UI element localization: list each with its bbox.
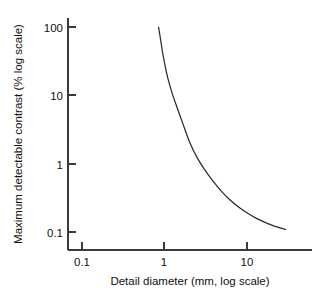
y-tick-label-100: 100 xyxy=(44,22,63,34)
y-tick-marks xyxy=(68,27,76,232)
x-tick-marks xyxy=(82,242,247,250)
x-tick-label-10: 10 xyxy=(241,256,254,268)
chart-figure: 100 10 1 0.1 0.1 1 10 Detail diameter (m… xyxy=(0,0,324,296)
x-tick-label-1: 1 xyxy=(161,256,167,268)
contrast-detail-curve xyxy=(159,27,286,229)
y-tick-label-10: 10 xyxy=(50,90,63,102)
y-tick-label-1: 1 xyxy=(57,159,63,171)
x-tick-label-0.1: 0.1 xyxy=(74,256,90,268)
y-axis-title: Maximum detectable contrast (% log scale… xyxy=(12,24,24,244)
y-tick-label-0.1: 0.1 xyxy=(47,227,63,239)
log-log-plot: 100 10 1 0.1 0.1 1 10 Detail diameter (m… xyxy=(0,0,324,296)
x-axis-title: Detail diameter (mm, log scale) xyxy=(110,275,269,287)
